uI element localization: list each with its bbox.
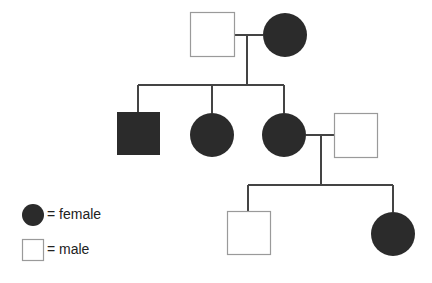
female-affected-II-3 [262, 113, 306, 157]
female-affected-II-2 [190, 113, 234, 157]
legend-female-icon [22, 204, 44, 226]
legend-male-icon [23, 240, 44, 261]
female-affected-I-2 [263, 13, 307, 57]
legend-symbols [22, 204, 44, 261]
male-affected-II-1 [117, 112, 160, 155]
male-unaffected-II-4 [335, 114, 378, 158]
male-unaffected-III-1 [228, 212, 271, 255]
male-unaffected-I-1 [191, 13, 235, 57]
legend-female-label: = female [47, 206, 101, 222]
female-affected-III-2 [371, 212, 415, 256]
legend-male-label: = male [47, 241, 89, 257]
